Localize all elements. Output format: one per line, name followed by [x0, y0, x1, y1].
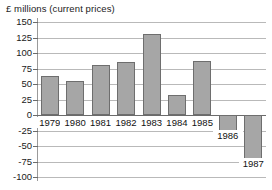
y-axis-tick — [33, 177, 38, 178]
y-axis-tick-label: 150 — [0, 16, 32, 27]
bar — [92, 65, 110, 115]
bar — [66, 81, 84, 115]
y-axis-tick-label: -50 — [0, 140, 32, 151]
gridline — [37, 22, 266, 23]
y-axis-tick — [33, 22, 38, 23]
y-axis-tick-label: -75 — [0, 156, 32, 167]
y-axis-tick — [33, 162, 38, 163]
bar — [168, 95, 186, 115]
gridline — [37, 146, 266, 147]
y-axis-tick-label: 25 — [0, 94, 32, 105]
y-axis-tick-label: 50 — [0, 78, 32, 89]
y-axis-tick-label: -25 — [0, 125, 32, 136]
x-axis-tick-label: 1987 — [239, 158, 268, 169]
y-axis-tick-label: 75 — [0, 63, 32, 74]
y-axis-tick — [33, 84, 38, 85]
y-axis-tick-label: 125 — [0, 32, 32, 43]
y-axis-tick — [33, 115, 38, 116]
plot-area — [37, 22, 266, 177]
y-axis-tick — [33, 146, 38, 147]
chart-axis-title: £ millions (current prices) — [6, 3, 115, 14]
x-axis-tick-label: 1986 — [213, 130, 242, 141]
y-axis-tick — [33, 131, 38, 132]
y-axis-tick-label: 0 — [0, 109, 32, 120]
gridline — [37, 177, 266, 178]
x-axis-tick-label: 1985 — [188, 117, 217, 128]
bar — [117, 62, 135, 115]
y-axis-tick — [33, 100, 38, 101]
y-axis-tick — [33, 69, 38, 70]
y-axis-tick — [33, 53, 38, 54]
bar — [193, 61, 211, 115]
bar-chart: £ millions (current prices) 150125100755… — [0, 0, 272, 190]
bar — [143, 34, 161, 115]
gridline — [37, 162, 266, 163]
bar — [41, 76, 59, 115]
y-axis-tick-label: 100 — [0, 47, 32, 58]
y-axis-tick-label: -100 — [0, 171, 32, 182]
y-axis-tick — [33, 38, 38, 39]
